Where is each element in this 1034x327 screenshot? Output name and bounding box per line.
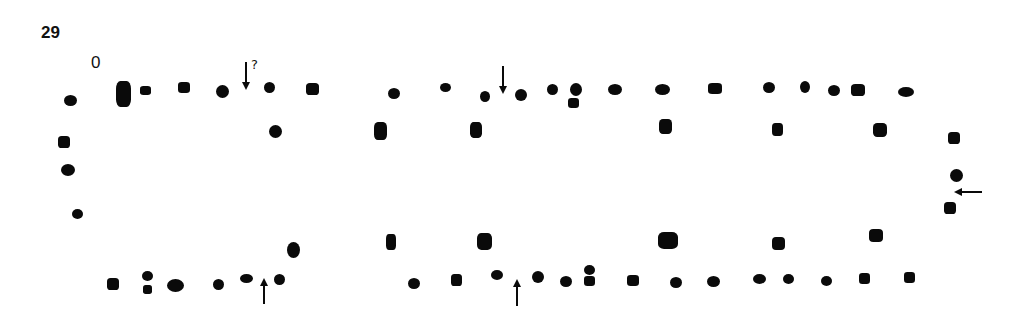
posthole-plan: 29 0 ? [0, 0, 1034, 327]
arrows-layer [0, 0, 1034, 327]
